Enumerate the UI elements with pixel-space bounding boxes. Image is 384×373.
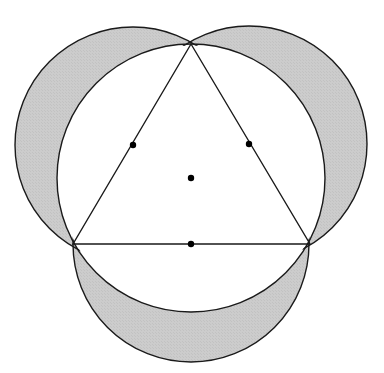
centroid-point <box>188 175 194 181</box>
left-side-midpoint <box>130 142 136 148</box>
right-side-midpoint <box>246 141 252 147</box>
geometry-figure <box>0 0 384 373</box>
geometry-canvas <box>0 0 384 373</box>
bottom-side-midpoint <box>188 241 194 247</box>
